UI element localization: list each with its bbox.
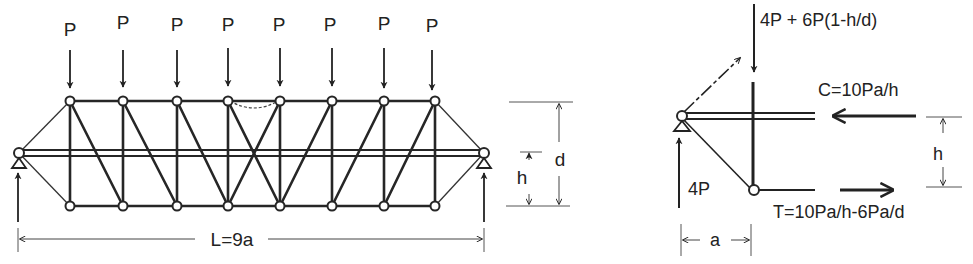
load-label-8: P [426, 15, 439, 36]
fbd-reaction-label: 4P [688, 179, 710, 199]
load-label-3: P [171, 14, 184, 35]
load-label-5: P [273, 14, 286, 35]
left-end-upper-diagonal [19, 101, 70, 153]
load-arrows [70, 48, 432, 90]
depth-dimension: d h [506, 102, 573, 206]
compression-label: C=10Pa/h [818, 80, 899, 100]
right-support-triangle-icon [477, 158, 491, 168]
truss: P P P P P P P P L=9a d h [12, 12, 573, 252]
truss-diagram: P P P P P P P P L=9a d h [0, 0, 973, 264]
left-support-triangle-icon [12, 158, 26, 168]
load-label-7: P [378, 13, 391, 34]
load-label-2: P [117, 12, 130, 33]
height-label: h [517, 167, 528, 188]
fbd-support-triangle-icon [674, 121, 690, 131]
load-label-6: P [324, 14, 337, 35]
depth-label: d [555, 149, 566, 170]
fbd-height-label: h [933, 144, 943, 164]
vertical-force-label: 4P + 6P(1-h/d) [760, 10, 877, 30]
right-end-upper-diagonal [435, 101, 484, 153]
verticals [70, 101, 435, 206]
load-labels: P P P P P P P P [64, 12, 439, 40]
right-end-lower-diagonal [435, 153, 484, 206]
diagonals [70, 101, 435, 206]
upper-diagonal-force-arrow [684, 58, 740, 112]
fbd-panel-label: a [710, 230, 721, 250]
load-label-4: P [222, 14, 235, 35]
left-end-lower-diagonal [19, 153, 70, 206]
span-dimension: L=9a [18, 228, 484, 252]
fbd-support-pin [677, 111, 687, 121]
load-label-1: P [64, 19, 77, 40]
span-label: L=9a [211, 229, 254, 250]
fbd-bottom-node [749, 185, 759, 195]
free-body-diagram: 4P + 6P(1-h/d) C=10Pa/h T=10Pa/h-6Pa/d 4… [674, 4, 962, 256]
tension-label: T=10Pa/h-6Pa/d [773, 202, 905, 222]
